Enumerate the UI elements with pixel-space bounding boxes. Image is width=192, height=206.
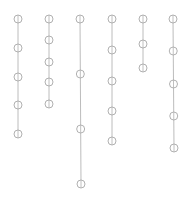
chain-node-circle-icon: [170, 80, 178, 88]
chain-node-circle-icon: [108, 46, 116, 54]
chain-node-circle-icon: [45, 58, 53, 66]
chain-node-circle-icon: [76, 70, 84, 78]
chain-node-circle-icon: [45, 36, 53, 44]
chain-6: [169, 15, 178, 152]
chain-node-circle-icon: [14, 101, 22, 109]
chain-node-circle-icon: [108, 107, 116, 115]
chain-node-circle-icon: [169, 15, 177, 23]
chain-node-circle-icon: [108, 77, 116, 85]
chain-node-circle-icon: [45, 100, 53, 108]
chain-1: [14, 15, 22, 138]
chain-node-circle-icon: [139, 64, 147, 72]
chain-node-circle-icon: [45, 78, 53, 86]
chain-node-circle-icon: [77, 125, 85, 133]
chain-connector-line: [80, 19, 81, 184]
chain-node-circle-icon: [169, 47, 177, 55]
chain-diagram: [0, 0, 192, 206]
chain-node-circle-icon: [14, 44, 22, 52]
chain-2: [45, 15, 53, 108]
chain-node-circle-icon: [108, 137, 116, 145]
chain-node-circle-icon: [14, 130, 22, 138]
chain-node-circle-icon: [170, 112, 178, 120]
chain-4: [108, 15, 116, 145]
chain-node-circle-icon: [139, 15, 147, 23]
chain-node-circle-icon: [170, 144, 178, 152]
chain-node-circle-icon: [77, 180, 85, 188]
chain-node-circle-icon: [139, 40, 147, 48]
chain-3: [76, 15, 85, 188]
chain-node-circle-icon: [14, 15, 22, 23]
chain-5: [139, 15, 147, 72]
chain-node-circle-icon: [45, 15, 53, 23]
chain-node-circle-icon: [14, 73, 22, 81]
chain-node-circle-icon: [76, 15, 84, 23]
chain-node-circle-icon: [108, 15, 116, 23]
